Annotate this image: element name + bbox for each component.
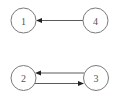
node-1: 1: [11, 8, 36, 33]
edge-4-to-1: [36, 18, 83, 23]
node-label: 4: [93, 16, 98, 27]
arrowhead-icon: [36, 18, 42, 23]
arrowhead-icon: [78, 81, 84, 86]
node-label: 2: [21, 73, 26, 84]
node-label: 1: [21, 16, 26, 27]
node-2: 2: [11, 66, 36, 91]
graph-canvas: 1 4 2 3: [0, 0, 124, 107]
node-3: 3: [84, 66, 109, 91]
node-label: 3: [94, 73, 99, 84]
edge-2-to-3: [35, 81, 84, 86]
node-4: 4: [83, 8, 108, 33]
edge-3-to-2: [35, 71, 84, 76]
